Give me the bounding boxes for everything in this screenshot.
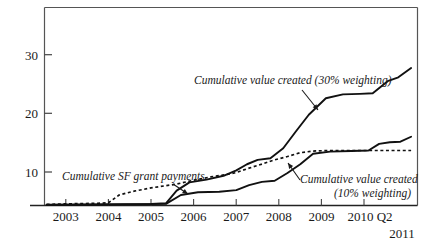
x-tick-label-2005: 2005: [138, 209, 164, 224]
annotation-value-created-30: Cumulative value created (30% weighting): [194, 74, 392, 87]
annotation-value-created-10-line2: (10% weighting): [334, 187, 411, 200]
x-tick-label-2006: 2006: [181, 209, 208, 224]
x-axis-end-label-2011: 2011: [389, 226, 415, 241]
x-tick-label-2010q2: 2010 Q2: [347, 209, 392, 224]
x-tick-label-2003: 2003: [53, 209, 79, 224]
x-tick-label-2009: 2009: [308, 209, 334, 224]
annotation-sf-grant-payments: Cumulative SF grant payments: [62, 170, 205, 183]
annotation-value-created-10-line1: Cumulative value created: [300, 173, 418, 185]
y-tick-label-10: 10: [25, 165, 38, 180]
y-tick-label-30: 30: [25, 48, 38, 63]
x-tick-label-2008: 2008: [266, 209, 292, 224]
cumulative-value-line-chart: 10 20 30 2003 2004 2005 2006 2007 2008 2…: [0, 0, 432, 249]
y-tick-label-20: 20: [25, 106, 38, 121]
x-tick-label-2007: 2007: [223, 209, 250, 224]
x-tick-label-2004: 2004: [95, 209, 122, 224]
chart-container: 10 20 30 2003 2004 2005 2006 2007 2008 2…: [0, 0, 432, 249]
